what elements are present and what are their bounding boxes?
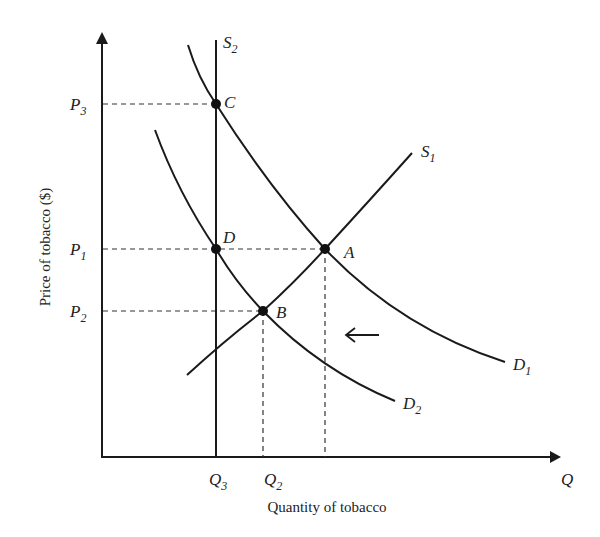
label-c: C (224, 93, 236, 112)
label-p2: P2 (69, 302, 86, 325)
supply-demand-diagram: C D A B S2 S1 D1 D2 P3 P1 P2 Q3 Q2 Q Qua… (0, 0, 600, 537)
label-q-axis: Q (561, 470, 573, 489)
label-q3: Q3 (209, 470, 227, 493)
y-axis-arrow-icon (96, 32, 108, 44)
label-d1: D1 (512, 355, 531, 378)
label-p1: P1 (69, 240, 86, 263)
y-axis-title: Price of tobacco ($) (37, 188, 54, 307)
x-axis-title: Quantity of tobacco (267, 499, 386, 515)
label-d2: D2 (402, 394, 421, 417)
label-a: A (343, 243, 355, 262)
point-c (211, 99, 221, 109)
d1-curve (188, 45, 505, 362)
label-q2: Q2 (264, 470, 282, 493)
label-s2: S2 (223, 33, 238, 56)
d2-curve (155, 130, 395, 401)
point-d (211, 244, 221, 254)
label-b: B (276, 303, 287, 322)
label-d: D (222, 228, 236, 247)
point-a (320, 244, 330, 254)
shift-arrow-icon (346, 328, 379, 342)
s1-curve (187, 153, 412, 375)
label-p3: P3 (69, 95, 86, 118)
point-b (258, 306, 268, 316)
x-axis-arrow-icon (550, 451, 561, 463)
label-s1: S1 (421, 142, 436, 165)
